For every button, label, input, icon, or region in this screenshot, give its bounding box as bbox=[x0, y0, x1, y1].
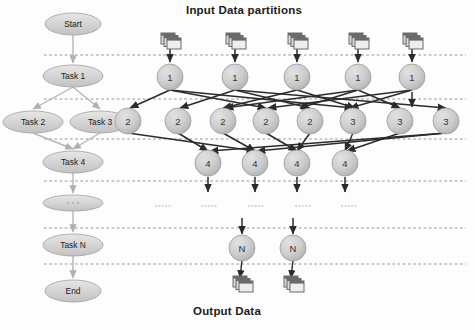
input-data-icons bbox=[161, 33, 423, 49]
task-node-row1-0: 1 bbox=[157, 64, 183, 90]
ellipsis-dot bbox=[258, 205, 260, 207]
workflow-edge-task1-task2 bbox=[33, 87, 73, 109]
workflow-node-label: Task 2 bbox=[21, 117, 46, 127]
input-data-icon-1 bbox=[226, 33, 246, 49]
ellipsis-dot bbox=[262, 205, 264, 207]
task-node-row3-3: 4 bbox=[332, 150, 358, 176]
ellipsis-dot bbox=[295, 205, 297, 207]
diagram-canvas: StartTask 1Task 2Task 3Task 4Task NEnd 1… bbox=[0, 0, 475, 330]
ellipsis-dot bbox=[204, 205, 206, 207]
task-node-row2-1: 2 bbox=[165, 108, 191, 134]
ellipsis-marks bbox=[155, 205, 357, 207]
task-node-label: 2 bbox=[175, 116, 180, 127]
ellipsis-dot bbox=[355, 205, 357, 207]
task-node-label: 1 bbox=[409, 72, 414, 83]
output-links bbox=[240, 260, 293, 278]
workflow-node-label: End bbox=[66, 286, 81, 296]
data-icon-front-bar bbox=[232, 38, 246, 41]
task-node-label: 2 bbox=[220, 116, 225, 127]
workflow-node-label: Task 3 bbox=[88, 117, 113, 127]
task-node-label: 2 bbox=[125, 116, 130, 127]
ellipsis-dot bbox=[255, 205, 257, 207]
task-node-label: 4 bbox=[294, 158, 299, 169]
task-node-label: 1 bbox=[355, 72, 360, 83]
task-node-row2-0: 2 bbox=[115, 108, 141, 134]
task-node-label: 4 bbox=[205, 158, 210, 169]
task-node-row1-4: 1 bbox=[399, 64, 425, 90]
ellipsis-dot bbox=[251, 205, 253, 207]
ellipsis-dot bbox=[248, 205, 250, 207]
task-node-row3-0: 4 bbox=[195, 150, 221, 176]
ellipsis-dot bbox=[201, 205, 203, 207]
ellipsis-dot bbox=[348, 205, 350, 207]
ellipsis-dot bbox=[341, 205, 343, 207]
task-node-row2-7: 3 bbox=[433, 108, 459, 134]
diagram-svg: StartTask 1Task 2Task 3Task 4Task NEnd 1… bbox=[0, 0, 475, 330]
workflow-node-label: Start bbox=[64, 19, 82, 29]
workflow-node-task4: Task 4 bbox=[43, 151, 103, 173]
ellipsis-dot bbox=[302, 205, 304, 207]
output-link-1 bbox=[291, 260, 293, 278]
output-link-0 bbox=[240, 260, 242, 278]
workflow-node-dots bbox=[43, 195, 103, 211]
input-data-title: Input Data partitions bbox=[186, 4, 302, 16]
task-node-row1-3: 1 bbox=[345, 64, 371, 90]
shuffle-edge-b-8 bbox=[210, 133, 446, 151]
ellipsis-dot bbox=[215, 205, 217, 207]
ellipsis-dot bbox=[165, 205, 167, 207]
ellipsis-mark-0 bbox=[155, 205, 171, 207]
workflow-node-taskN: Task N bbox=[43, 234, 103, 256]
task-node-label: 3 bbox=[397, 116, 402, 127]
task-node-row2-4: 2 bbox=[297, 108, 323, 134]
data-icon-front-bar bbox=[294, 38, 308, 41]
task-node-row2-5: 3 bbox=[340, 108, 366, 134]
workflow-node-label: Task 4 bbox=[61, 157, 86, 167]
task-node-row3-2: 4 bbox=[284, 150, 310, 176]
shuffle-edge-b-4 bbox=[297, 133, 310, 151]
task-node-rowN-0: N bbox=[229, 235, 255, 261]
task-node-label: 4 bbox=[342, 158, 347, 169]
task-node-label: N bbox=[290, 243, 297, 254]
ellipsis-dot bbox=[298, 205, 300, 207]
workflow-edge-task3-task4 bbox=[73, 133, 100, 149]
ellipsis-dot bbox=[351, 205, 353, 207]
ellipsis-dot bbox=[208, 205, 210, 207]
ellipsis-dot bbox=[305, 205, 307, 207]
input-data-icon-2 bbox=[288, 33, 308, 49]
shuffle-edges-stage2 bbox=[128, 133, 446, 151]
workflow-nodes: StartTask 1Task 2Task 3Task 4Task NEnd bbox=[3, 13, 130, 302]
ellipsis-dot bbox=[309, 205, 311, 207]
ellipsis-dot bbox=[158, 205, 160, 207]
workflow-node-task2: Task 2 bbox=[3, 111, 63, 133]
ellipsis-dot bbox=[77, 202, 79, 204]
ellipsis-dot bbox=[67, 202, 69, 204]
task-node-row3-1: 4 bbox=[242, 150, 268, 176]
ellipsis-dot bbox=[162, 205, 164, 207]
workflow-node-task1: Task 1 bbox=[43, 65, 103, 87]
task-node-rowN-1: N bbox=[280, 235, 306, 261]
output-data-icon-1 bbox=[284, 276, 304, 292]
task-node-row2-6: 3 bbox=[387, 108, 413, 134]
workflow-node-label: Task N bbox=[60, 240, 86, 250]
task-node-row1-2: 1 bbox=[284, 64, 310, 90]
data-icon-front-bar bbox=[239, 281, 253, 284]
task-node-label: 3 bbox=[443, 116, 448, 127]
task-node-label: 1 bbox=[294, 72, 299, 83]
task-node-label: 2 bbox=[263, 116, 268, 127]
ellipsis-mark-1 bbox=[201, 205, 217, 207]
task-node-row1-1: 1 bbox=[222, 64, 248, 90]
ellipsis-dot bbox=[169, 205, 171, 207]
workflow-edge-task1-task3 bbox=[73, 87, 100, 109]
workflow-node-end: End bbox=[45, 280, 101, 302]
data-icon-front-bar bbox=[355, 38, 369, 41]
task-node-label: 2 bbox=[307, 116, 312, 127]
output-data-icon-0 bbox=[233, 276, 253, 292]
input-data-icon-4 bbox=[403, 33, 423, 49]
task-node-label: 4 bbox=[252, 158, 257, 169]
output-data-icons bbox=[233, 276, 304, 292]
data-icon-front-bar bbox=[167, 38, 181, 41]
workflow-edge-task2-task4 bbox=[33, 133, 73, 149]
ellipsis-mark-4 bbox=[341, 205, 357, 207]
task-instance-nodes: 11111222223334444NN bbox=[115, 64, 459, 261]
task-node-label: 1 bbox=[232, 72, 237, 83]
